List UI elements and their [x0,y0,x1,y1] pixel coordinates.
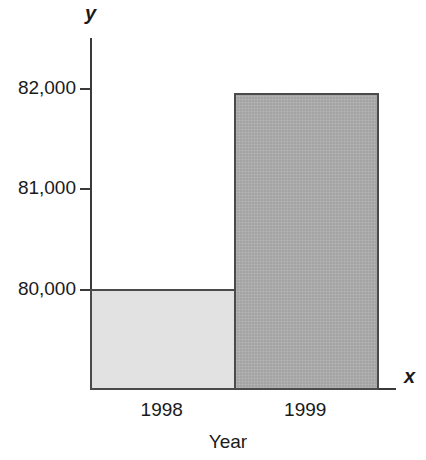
bar-1999 [234,93,380,390]
bar-1998 [90,289,236,390]
x-axis-title: Year [0,431,426,453]
y-axis-tick-label-81000: 81,000 [0,178,76,198]
y-axis-tick-81000 [80,188,92,190]
x-axis-category-label-1999: 1999 [230,399,380,421]
x-axis-category-label-1998: 1998 [87,399,237,421]
y-axis-tick-label-82000: 82,000 [0,78,76,98]
x-axis-name-label: x [404,365,415,388]
bar-chart: 82,000 81,000 80,000 y x 1998 1999 Year [0,0,426,460]
y-axis-tick-82000 [80,88,92,90]
y-axis-tick-label-80000: 80,000 [0,279,76,299]
y-axis-name-label: y [85,2,96,25]
